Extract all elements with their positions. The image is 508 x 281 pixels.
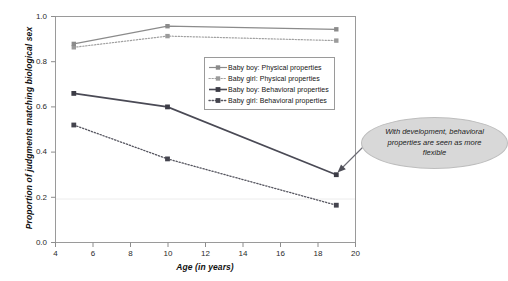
legend-label: Baby girl: Physical properties [228, 75, 320, 82]
x-tick-label: 16 [269, 249, 293, 258]
chart-legend: Baby boy: Physical properties Baby girl:… [204, 57, 335, 110]
legend-marker-dotted-line-icon [208, 74, 228, 83]
x-tick-label: 4 [44, 249, 68, 258]
x-axis-ticks [56, 243, 356, 248]
x-tick-label: 14 [231, 249, 255, 258]
x-axis-title: Age (in years) [55, 262, 355, 272]
legend-label: Baby boy: Physical properties [228, 64, 322, 71]
legend-marker-line-icon [208, 85, 228, 94]
y-axis-ticks [51, 17, 56, 243]
y-tick-label: 0.6 [23, 102, 47, 111]
y-tick-label: 0.4 [23, 147, 47, 156]
x-tick-label: 18 [306, 249, 330, 258]
x-tick-label: 20 [344, 249, 368, 258]
legend-item-baby-boy-behavioral[interactable]: Baby boy: Behavioral properties [208, 84, 330, 94]
series-baby-girl-behavioral [71, 123, 338, 208]
legend-label: Baby girl: Behavioral properties [228, 97, 327, 104]
x-tick-label: 10 [156, 249, 180, 258]
chart-figure: Proportion of judgments matching biologi… [0, 0, 508, 281]
series-baby-boy-physical [72, 24, 339, 46]
legend-marker-line-icon [208, 63, 228, 72]
legend-marker-dotted-line-icon [208, 96, 228, 105]
plot-frame [56, 17, 356, 243]
legend-item-baby-girl-physical[interactable]: Baby girl: Physical properties [208, 73, 330, 83]
y-axis-title: Proportion of judgments matching biologi… [24, 21, 34, 235]
y-tick-label: 1.0 [23, 12, 47, 21]
x-tick-label: 8 [119, 249, 143, 258]
annotation-callout: With development, behavioral properties … [361, 117, 508, 169]
legend-label: Baby boy: Behavioral properties [228, 86, 329, 93]
x-tick-label: 6 [81, 249, 105, 258]
y-tick-label: 0.2 [23, 193, 47, 202]
annotation-callout-text: With development, behavioral properties … [379, 127, 491, 159]
legend-item-baby-girl-behavioral[interactable]: Baby girl: Behavioral properties [208, 95, 330, 105]
legend-item-baby-boy-physical[interactable]: Baby boy: Physical properties [208, 62, 330, 72]
y-tick-label: 0.0 [23, 238, 47, 247]
x-tick-label: 12 [194, 249, 218, 258]
y-tick-label: 0.8 [23, 57, 47, 66]
